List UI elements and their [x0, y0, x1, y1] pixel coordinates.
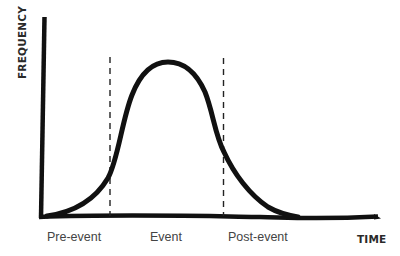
phase-label-pre-event: Pre-event — [47, 230, 102, 244]
frequency-curve — [47, 62, 298, 217]
y-axis-label: FREQUENCY — [16, 6, 28, 79]
phase-label-post-event: Post-event — [228, 230, 288, 244]
event-frequency-diagram: FREQUENCY TIME Pre-event Event Post-even… — [0, 0, 400, 256]
x-axis-line — [39, 215, 378, 218]
phase-label-event: Event — [150, 230, 182, 244]
x-axis-label: TIME — [357, 233, 387, 245]
y-axis-line — [41, 17, 45, 218]
